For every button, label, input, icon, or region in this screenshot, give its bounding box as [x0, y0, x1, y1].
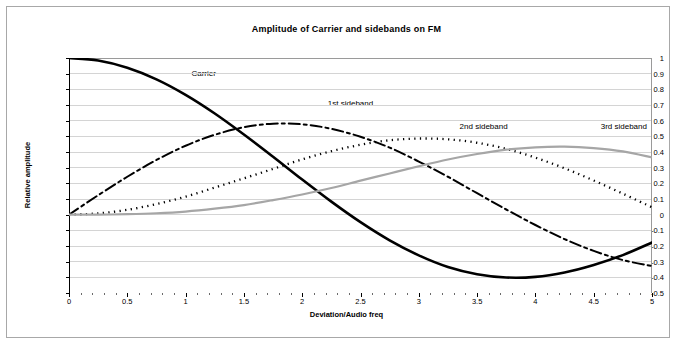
x-axis-tick-mark — [186, 293, 187, 297]
y-axis-tick-label: -0.4 — [651, 273, 664, 282]
x-axis-minor-tick-mark — [92, 293, 93, 295]
x-axis-minor-tick-mark — [162, 293, 163, 295]
x-axis-minor-tick-mark — [547, 293, 548, 295]
x-axis-tick-label: 3.5 — [472, 297, 482, 306]
x-axis-tick-mark — [477, 293, 478, 297]
x-axis-minor-tick-mark — [221, 293, 222, 295]
x-axis-minor-tick-mark — [629, 293, 630, 295]
chart-title: Amplitude of Carrier and sidebands on FM — [7, 24, 679, 34]
x-axis-tick-label: 4 — [533, 297, 537, 306]
x-axis-tick-label: 2 — [300, 297, 304, 306]
y-axis-tick-label: 1 — [660, 54, 664, 63]
y-axis-tick-label: 0.4 — [654, 148, 664, 157]
x-axis-minor-tick-mark — [570, 293, 571, 295]
x-axis-minor-tick-mark — [279, 293, 280, 295]
x-axis-minor-tick-mark — [174, 293, 175, 295]
x-axis-tick-label: 1.5 — [239, 297, 249, 306]
x-axis-minor-tick-mark — [512, 293, 513, 295]
y-axis-title: Relative amplitude — [23, 142, 32, 208]
x-axis-minor-tick-mark — [384, 293, 385, 295]
x-axis-minor-tick-mark — [605, 293, 606, 295]
y-axis-tick-label: 0.1 — [654, 195, 664, 204]
x-axis-minor-tick-mark — [314, 293, 315, 295]
x-axis-tick-mark — [361, 293, 362, 297]
x-axis-tick-label: 0.5 — [122, 297, 132, 306]
x-axis-tick-mark — [419, 293, 420, 297]
x-axis-minor-tick-mark — [559, 293, 560, 295]
x-axis-tick-label: 5 — [650, 297, 654, 306]
x-axis-minor-tick-mark — [430, 293, 431, 295]
y-axis-tick-label: -0.2 — [651, 242, 664, 251]
x-axis-tick-label: 2.5 — [355, 297, 365, 306]
x-axis-tick-mark — [594, 293, 595, 297]
x-axis-tick-mark — [652, 293, 653, 297]
x-axis-minor-tick-mark — [232, 293, 233, 295]
chart-svg — [69, 58, 652, 293]
y-axis-tick-label: 0.3 — [654, 163, 664, 172]
y-axis-tick-label: 0.7 — [654, 101, 664, 110]
x-axis-minor-tick-mark — [256, 293, 257, 295]
x-axis-minor-tick-mark — [209, 293, 210, 295]
x-axis-minor-tick-mark — [489, 293, 490, 295]
x-axis-tick-label: 1 — [184, 297, 188, 306]
x-axis-tick-mark — [127, 293, 128, 297]
series-line-sideband-1 — [69, 123, 652, 266]
x-axis-tick-label: 3 — [417, 297, 421, 306]
y-axis-tick-label: -0.1 — [651, 226, 664, 235]
x-axis-minor-tick-mark — [116, 293, 117, 295]
y-axis-tick-label: 0.2 — [654, 179, 664, 188]
x-axis-minor-tick-mark — [640, 293, 641, 295]
x-axis-tick-mark — [69, 293, 70, 297]
x-axis-minor-tick-mark — [407, 293, 408, 295]
x-axis-minor-tick-mark — [372, 293, 373, 295]
chart-outer-frame: Amplitude of Carrier and sidebands on FM… — [6, 6, 670, 338]
x-axis-tick-mark — [244, 293, 245, 297]
x-axis-tick-label: 4.5 — [588, 297, 598, 306]
x-axis-minor-tick-mark — [500, 293, 501, 295]
plot-area — [69, 58, 652, 293]
x-axis-minor-tick-mark — [337, 293, 338, 295]
y-axis-tick-label: 0.8 — [654, 85, 664, 94]
x-axis-minor-tick-mark — [395, 293, 396, 295]
x-axis-tick-mark — [535, 293, 536, 297]
series-line-sideband-2 — [69, 138, 652, 214]
x-axis-minor-tick-mark — [291, 293, 292, 295]
x-axis-minor-tick-mark — [197, 293, 198, 295]
x-axis-minor-tick-mark — [465, 293, 466, 295]
x-axis-minor-tick-mark — [349, 293, 350, 295]
x-axis-minor-tick-mark — [442, 293, 443, 295]
series-line-sideband-3 — [69, 147, 652, 215]
x-axis-minor-tick-mark — [524, 293, 525, 295]
x-axis-minor-tick-mark — [104, 293, 105, 295]
x-axis-minor-tick-mark — [81, 293, 82, 295]
x-axis-minor-tick-mark — [582, 293, 583, 295]
x-axis-minor-tick-mark — [326, 293, 327, 295]
x-axis-minor-tick-mark — [139, 293, 140, 295]
x-axis-tick-mark — [302, 293, 303, 297]
x-axis-minor-tick-mark — [454, 293, 455, 295]
y-axis-tick-label: 0 — [660, 210, 664, 219]
y-axis-tick-label: -0.3 — [651, 257, 664, 266]
y-axis-tick-label: 0.6 — [654, 116, 664, 125]
y-axis-tick-label: 0.5 — [654, 132, 664, 141]
x-axis-minor-tick-mark — [151, 293, 152, 295]
x-axis-minor-tick-mark — [617, 293, 618, 295]
x-axis-tick-label: 0 — [67, 297, 71, 306]
y-axis-tick-label: 0.9 — [654, 69, 664, 78]
x-axis-title: Deviation/Audio freq — [7, 310, 679, 319]
x-axis-minor-tick-mark — [267, 293, 268, 295]
